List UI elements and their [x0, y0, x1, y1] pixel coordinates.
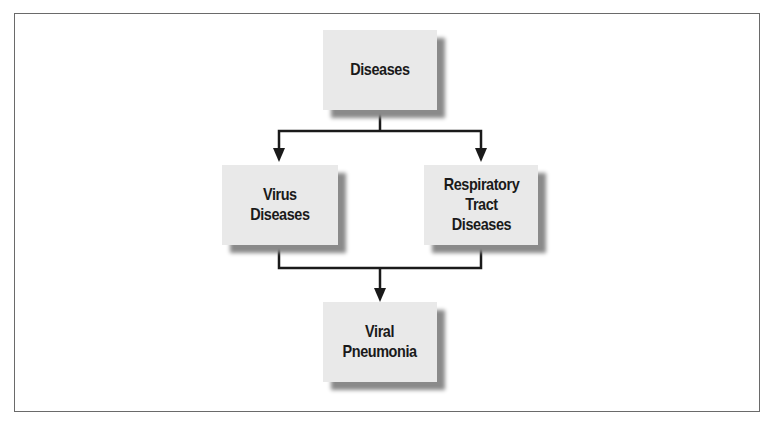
node-label: Virus Diseases	[250, 185, 309, 225]
node-diseases: Diseases	[323, 30, 437, 110]
arrowhead-icon	[273, 148, 285, 162]
edge-to-virus-diseases	[279, 131, 380, 150]
node-respiratory-tract-diseases: Respiratory Tract Diseases	[424, 165, 538, 245]
arrowhead-icon	[475, 148, 487, 162]
arrowhead-icon	[374, 288, 386, 302]
node-label: Respiratory Tract Diseases	[443, 175, 519, 235]
edge-virus-merge	[279, 245, 481, 268]
node-label: Diseases	[350, 60, 409, 80]
node-viral-pneumonia: Viral Pneumonia	[323, 302, 437, 382]
node-virus-diseases: Virus Diseases	[222, 165, 338, 245]
node-label: Viral Pneumonia	[343, 322, 417, 362]
edge-to-respiratory	[380, 131, 481, 150]
